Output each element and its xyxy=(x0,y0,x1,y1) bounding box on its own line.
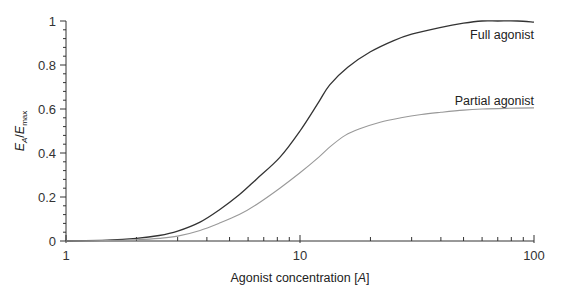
y-tick-label: 1 xyxy=(49,14,56,29)
x-tick-label: 100 xyxy=(523,248,545,263)
y-axis: 00.20.40.60.81 xyxy=(38,14,66,249)
plot-area xyxy=(66,21,534,241)
x-tick-label: 10 xyxy=(293,248,307,263)
y-tick-label: 0.4 xyxy=(38,146,56,161)
partial-agonist-curve xyxy=(66,108,534,241)
x-axis: 110100 xyxy=(62,235,544,263)
full-agonist-curve xyxy=(66,21,534,241)
y-axis-title: EA/Emax xyxy=(13,111,29,152)
x-axis-title: Agonist concentration [A] xyxy=(231,271,370,285)
x-axis-title-close: ] xyxy=(366,271,369,285)
x-tick-label: 1 xyxy=(62,248,69,263)
x-axis-title-var: A xyxy=(357,271,366,285)
dose-response-chart: 00.20.40.60.81 110100 Full agonist Parti… xyxy=(0,0,561,297)
y-tick-label: 0 xyxy=(49,234,56,249)
full-agonist-label: Full agonist xyxy=(470,28,534,42)
y-tick-label: 0.8 xyxy=(38,58,56,73)
x-axis-title-text: Agonist concentration [ xyxy=(231,271,359,285)
y-axis-title-sub2: max xyxy=(20,111,29,126)
partial-agonist-label: Partial agonist xyxy=(455,94,535,108)
y-tick-label: 0.6 xyxy=(38,102,56,117)
y-tick-label: 0.2 xyxy=(38,190,56,205)
